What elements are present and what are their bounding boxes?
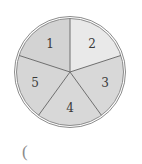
spinner-figure: 12345 — [0, 0, 142, 164]
answer-blank-open-paren: ( — [22, 143, 28, 160]
sector-label-5: 5 — [31, 76, 39, 90]
sector-label-4: 4 — [66, 101, 74, 115]
sector-label-2: 2 — [88, 37, 96, 51]
sector-label-3: 3 — [101, 76, 109, 90]
sector-label-1: 1 — [46, 37, 54, 51]
